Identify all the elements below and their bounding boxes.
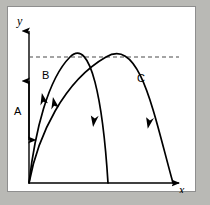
trajectory-c-descending-arrowhead bbox=[144, 116, 154, 129]
curve-label-c: C bbox=[137, 72, 145, 84]
x-axis-label: x bbox=[178, 183, 185, 193]
curve-label-b: B bbox=[42, 69, 49, 81]
y-axis-label: y bbox=[16, 14, 23, 28]
projectile-trajectory-diagram: y x A bbox=[8, 7, 197, 193]
figure-screenshot: y x A bbox=[0, 0, 210, 205]
trajectory-b-descending-arrowhead bbox=[89, 114, 99, 127]
figure-panel: y x A bbox=[7, 6, 196, 192]
segment-a-label: A bbox=[14, 105, 22, 117]
